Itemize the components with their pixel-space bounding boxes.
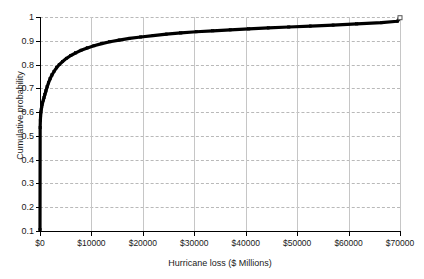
x-tick-mark-$50000 <box>297 232 298 236</box>
gridline-y-0.2 <box>40 207 400 208</box>
y-tick-mark-0.7 <box>36 88 40 89</box>
y-tick-label: 0.1 <box>4 227 34 236</box>
gridline-x-$20000 <box>143 17 144 231</box>
gridline-y-1 <box>40 17 400 18</box>
x-tick-mark-$30000 <box>194 232 195 236</box>
gridline-x-$30000 <box>194 17 195 231</box>
y-tick-mark-0.6 <box>36 112 40 113</box>
gridline-x-$40000 <box>246 17 247 231</box>
gridline-y-0.9 <box>40 41 400 42</box>
x-axis-title: Hurricane loss ($ Millions) <box>40 258 400 269</box>
y-tick-mark-1 <box>36 17 40 18</box>
gridline-y-0.5 <box>40 136 400 137</box>
y-tick-mark-0.2 <box>36 207 40 208</box>
x-tick-mark-$70000 <box>400 232 401 236</box>
y-axis-line <box>40 17 41 232</box>
y-tick-mark-0.8 <box>36 65 40 66</box>
gridline-y-0.4 <box>40 160 400 161</box>
gridline-x-$60000 <box>349 17 350 231</box>
y-tick-mark-0.5 <box>36 136 40 137</box>
x-tick-label: $70000 <box>365 238 424 248</box>
y-tick-mark-0.4 <box>36 160 40 161</box>
gridline-y-0.6 <box>40 112 400 113</box>
y-tick-mark-0.3 <box>36 183 40 184</box>
x-tick-mark-$20000 <box>143 232 144 236</box>
x-tick-mark-$10000 <box>91 232 92 236</box>
x-axis-line <box>40 231 401 232</box>
gridline-y-0.8 <box>40 65 400 66</box>
gridline-x-$10000 <box>91 17 92 231</box>
gridline-x-$70000 <box>400 17 401 231</box>
y-axis-title: Cumulative probability <box>15 26 26 206</box>
hurricane-loss-cdf-chart: 0.10.20.30.40.50.60.70.80.91 $0$10000$20… <box>0 0 424 279</box>
gridline-y-0.7 <box>40 88 400 89</box>
plot-area <box>40 17 400 231</box>
gridline-x-$50000 <box>297 17 298 231</box>
x-tick-mark-$40000 <box>246 232 247 236</box>
y-tick-label: 1 <box>4 13 34 22</box>
gridline-y-0.3 <box>40 183 400 184</box>
y-tick-mark-0.9 <box>36 41 40 42</box>
x-tick-mark-$0 <box>40 232 41 236</box>
x-tick-mark-$60000 <box>349 232 350 236</box>
